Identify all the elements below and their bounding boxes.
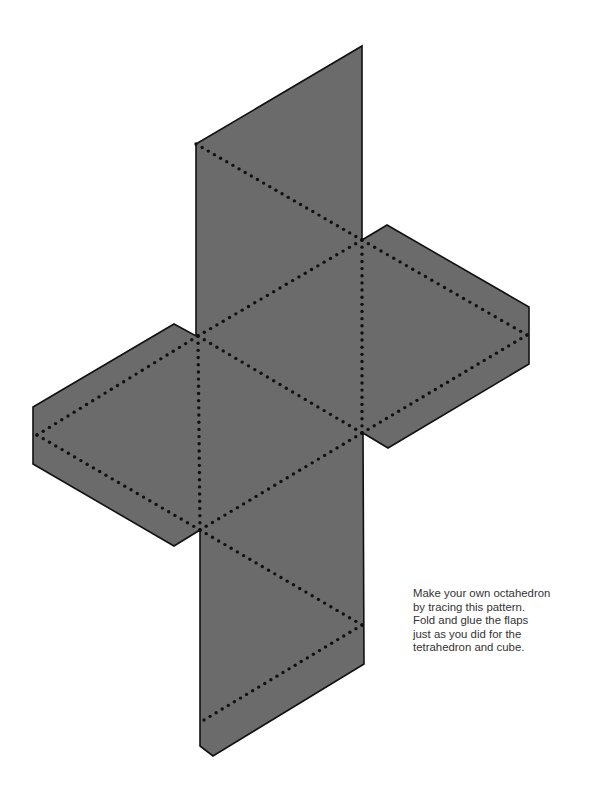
fold-dot (329, 257, 332, 260)
fold-dot (259, 297, 262, 300)
instruction-caption: Make your own octahedron by tracing this… (413, 587, 599, 655)
fold-dot (360, 353, 363, 356)
fold-dot (342, 228, 345, 231)
fold-dot (360, 360, 363, 363)
fold-dot (360, 396, 363, 399)
fold-dot (392, 257, 395, 260)
fold-dot (293, 663, 296, 666)
fold-dot (48, 441, 51, 444)
fold-dot (203, 338, 206, 341)
fold-dot (141, 369, 144, 372)
fold-dot (411, 268, 414, 271)
fold-dot (213, 153, 216, 156)
fold-dot (263, 682, 266, 685)
fold-dot (209, 342, 212, 345)
fold-dot (48, 426, 51, 429)
fold-dot (379, 420, 382, 423)
fold-dot (391, 413, 394, 416)
fold-dot (219, 157, 222, 160)
fold-dot (211, 536, 214, 539)
fold-dot (348, 631, 351, 634)
fold-dot (323, 454, 326, 457)
fold-dot (153, 361, 156, 364)
fold-dot (329, 450, 332, 453)
fold-dot (323, 601, 326, 604)
fold-dot (360, 253, 363, 256)
fold-dot (360, 410, 363, 413)
fold-dot (506, 322, 509, 325)
fold-dot (247, 305, 250, 308)
fold-dot (360, 374, 363, 377)
fold-dot (274, 189, 277, 192)
fold-dot (348, 231, 351, 234)
fold-dot (354, 435, 357, 438)
fold-dot (54, 422, 57, 425)
fold-dot (261, 491, 264, 494)
fold-dot (297, 275, 300, 278)
fold-dot (198, 492, 201, 495)
fold-dot (248, 558, 251, 561)
fold-dot (279, 480, 282, 483)
fold-dot (222, 349, 225, 352)
fold-dot (54, 444, 57, 447)
fold-dot (335, 416, 338, 419)
fold-dot (360, 346, 363, 349)
fold-dot (468, 300, 471, 303)
fold-dot (316, 264, 319, 267)
fold-dot (316, 405, 319, 408)
fold-dot (360, 317, 363, 320)
fold-dot (297, 394, 300, 397)
fold-dot (211, 521, 214, 524)
fold-dot (128, 376, 131, 379)
fold-dot (287, 667, 290, 670)
fold-dot (250, 174, 253, 177)
fold-dot (208, 715, 211, 718)
fold-dot (253, 301, 256, 304)
fold-dot (267, 568, 270, 571)
fold-dot (421, 395, 424, 398)
fold-dot (203, 331, 206, 334)
fold-dot (42, 437, 45, 440)
fold-dot (165, 353, 168, 356)
fold-dot (110, 388, 113, 391)
fold-dot (428, 391, 431, 394)
caption-line: just as you did for the (413, 628, 599, 642)
fold-dot (197, 449, 200, 452)
fold-dot (167, 510, 170, 513)
fold-dot (79, 459, 82, 462)
fold-dot (519, 337, 522, 340)
fold-dot (200, 146, 203, 149)
fold-dot (335, 609, 338, 612)
fold-dot (60, 418, 63, 421)
fold-dot (424, 275, 427, 278)
fold-dot (336, 638, 339, 641)
fold-dot (360, 281, 363, 284)
fold-dot (253, 368, 256, 371)
fold-dot (286, 579, 289, 582)
fold-dot (190, 338, 193, 341)
fold-dot (227, 704, 230, 707)
fold-dot (197, 406, 200, 409)
fold-dot (197, 399, 200, 402)
fold-dot (92, 466, 95, 469)
fold-dot (73, 455, 76, 458)
fold-dot (280, 192, 283, 195)
fold-dot (278, 286, 281, 289)
fold-dot (464, 370, 467, 373)
fold-dot (475, 304, 478, 307)
fold-dot (242, 502, 245, 505)
fold-dot (214, 711, 217, 714)
fold-dot (85, 403, 88, 406)
fold-dot (209, 327, 212, 330)
fold-dot (60, 448, 63, 451)
fold-dot (148, 499, 151, 502)
fold-dot (341, 420, 344, 423)
fold-dot (272, 379, 275, 382)
fold-dot (237, 167, 240, 170)
fold-dot (240, 360, 243, 363)
fold-dot (35, 433, 38, 436)
fold-dot (360, 338, 363, 341)
fold-dot (198, 514, 201, 517)
fold-dot (360, 288, 363, 291)
fold-dot (329, 413, 332, 416)
